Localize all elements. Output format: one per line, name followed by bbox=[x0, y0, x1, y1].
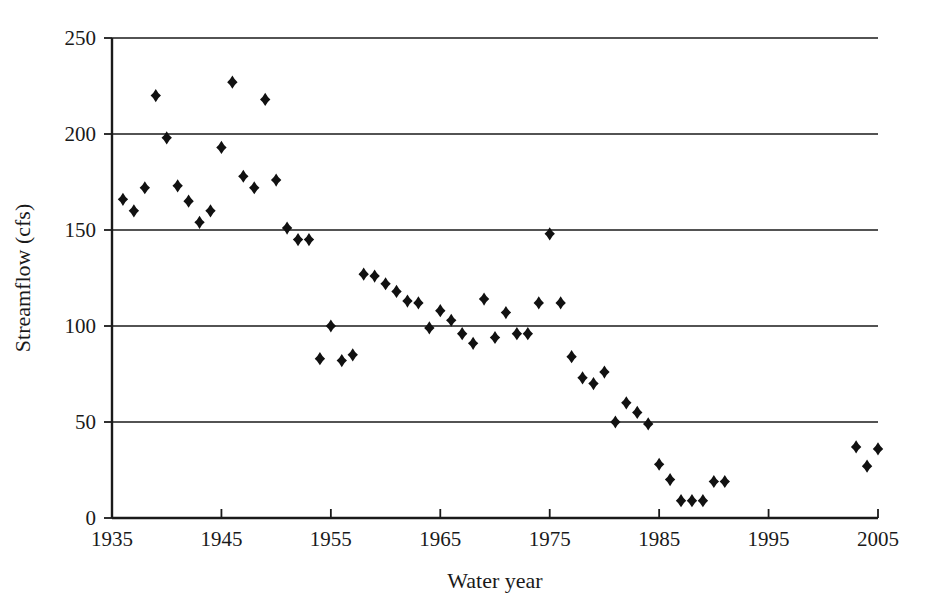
data-point-marker bbox=[424, 321, 434, 334]
data-point-marker bbox=[326, 319, 336, 332]
scatter-plot-figure: 050100150200250 193519451955196519751985… bbox=[0, 0, 938, 612]
tick-marks-group bbox=[104, 38, 878, 518]
x-tick-label: 1955 bbox=[310, 527, 352, 551]
data-point-marker bbox=[402, 294, 412, 307]
data-point-marker bbox=[140, 181, 150, 194]
data-point-marker bbox=[566, 350, 576, 363]
y-tick-label: 250 bbox=[65, 26, 97, 50]
data-point-marker bbox=[129, 204, 139, 217]
data-point-marker bbox=[227, 76, 237, 89]
gridlines-group bbox=[112, 38, 878, 422]
x-tick-label: 1935 bbox=[91, 527, 133, 551]
data-point-marker bbox=[315, 352, 325, 365]
data-point-marker bbox=[391, 285, 401, 298]
data-point-marker bbox=[413, 296, 423, 309]
data-point-marker bbox=[118, 193, 128, 206]
data-point-marker bbox=[862, 460, 872, 473]
data-point-marker bbox=[599, 365, 609, 378]
y-tick-labels-group: 050100150200250 bbox=[65, 26, 97, 530]
data-point-marker bbox=[698, 494, 708, 507]
data-point-marker bbox=[249, 181, 259, 194]
data-point-marker bbox=[238, 170, 248, 183]
data-point-marker bbox=[468, 337, 478, 350]
data-point-marker bbox=[610, 415, 620, 428]
data-point-marker bbox=[643, 417, 653, 430]
y-tick-label: 200 bbox=[65, 122, 97, 146]
data-point-marker bbox=[851, 440, 861, 453]
data-point-marker bbox=[687, 494, 697, 507]
data-point-marker bbox=[216, 141, 226, 154]
x-tick-label: 1995 bbox=[748, 527, 790, 551]
data-point-marker bbox=[348, 348, 358, 361]
data-point-marker bbox=[194, 216, 204, 229]
x-tick-label: 1975 bbox=[529, 527, 571, 551]
data-point-marker bbox=[183, 195, 193, 208]
data-point-marker bbox=[282, 221, 292, 234]
data-point-marker bbox=[446, 314, 456, 327]
data-point-marker bbox=[512, 327, 522, 340]
x-tick-labels-group: 19351945195519651975198519952005 bbox=[91, 527, 899, 551]
data-point-marker bbox=[293, 233, 303, 246]
data-point-marker bbox=[501, 306, 511, 319]
data-point-marker bbox=[720, 475, 730, 488]
data-point-marker bbox=[621, 396, 631, 409]
data-point-marker bbox=[457, 327, 467, 340]
data-point-marker bbox=[271, 173, 281, 186]
data-point-marker bbox=[172, 179, 182, 192]
data-point-marker bbox=[380, 277, 390, 290]
x-axis-title: Water year bbox=[447, 568, 543, 593]
data-point-marker bbox=[534, 296, 544, 309]
data-point-marker bbox=[665, 473, 675, 486]
data-point-marker bbox=[523, 327, 533, 340]
data-point-marker bbox=[337, 354, 347, 367]
x-tick-label: 1985 bbox=[638, 527, 680, 551]
data-points-group bbox=[118, 76, 883, 508]
data-point-marker bbox=[369, 269, 379, 282]
data-point-marker bbox=[162, 131, 172, 144]
data-point-marker bbox=[435, 304, 445, 317]
data-point-marker bbox=[676, 494, 686, 507]
data-point-marker bbox=[577, 371, 587, 384]
data-point-marker bbox=[654, 458, 664, 471]
y-tick-label: 100 bbox=[65, 314, 97, 338]
data-point-marker bbox=[151, 89, 161, 102]
data-point-marker bbox=[479, 293, 489, 306]
x-tick-label: 2005 bbox=[857, 527, 899, 551]
data-point-marker bbox=[873, 442, 883, 455]
data-point-marker bbox=[205, 204, 215, 217]
plot-canvas: 050100150200250 193519451955196519751985… bbox=[0, 0, 938, 612]
data-point-marker bbox=[490, 331, 500, 344]
data-point-marker bbox=[555, 296, 565, 309]
x-tick-label: 1945 bbox=[200, 527, 242, 551]
data-point-marker bbox=[588, 377, 598, 390]
data-point-marker bbox=[358, 268, 368, 281]
y-axis-title: Streamflow (cfs) bbox=[10, 204, 35, 352]
data-point-marker bbox=[260, 93, 270, 106]
data-point-marker bbox=[709, 475, 719, 488]
y-tick-label: 50 bbox=[75, 410, 96, 434]
x-tick-label: 1965 bbox=[419, 527, 461, 551]
axis-lines-group bbox=[112, 38, 878, 518]
data-point-marker bbox=[632, 406, 642, 419]
y-tick-label: 150 bbox=[65, 218, 97, 242]
data-point-marker bbox=[545, 227, 555, 240]
data-point-marker bbox=[304, 233, 314, 246]
